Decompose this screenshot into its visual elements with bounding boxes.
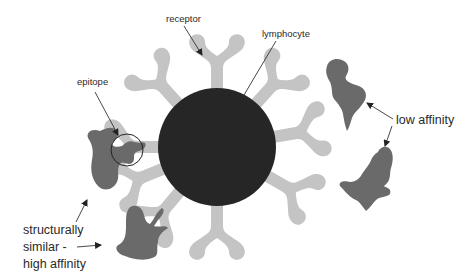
label-lymphocyte: lymphocyte	[262, 28, 310, 39]
antigen-low-affinity-1	[326, 59, 366, 131]
lymphocyte-diagram: receptor lymphocyte epitope low affinity…	[0, 0, 469, 278]
label-epitope: epitope	[77, 76, 108, 87]
leader-high-affinity-1	[76, 200, 87, 222]
leader-low-affinity-2	[385, 126, 392, 146]
leader-low-affinity-1	[367, 103, 393, 119]
label-receptor: receptor	[166, 13, 201, 24]
label-high-affinity-line2: similar -	[23, 240, 67, 254]
receptor-shape	[266, 100, 333, 165]
lymphocyte-cell	[158, 88, 276, 206]
label-low-affinity: low affinity	[396, 113, 455, 127]
receptor-shape	[189, 34, 245, 92]
receptor-shape	[189, 202, 245, 260]
label-high-affinity-line3: high affinity	[23, 257, 87, 271]
antigen-low-affinity-2	[340, 147, 393, 211]
leader-high-affinity-2	[77, 245, 101, 247]
antigen-high-affinity	[116, 206, 168, 260]
label-high-affinity-line1: structurally	[23, 223, 84, 237]
